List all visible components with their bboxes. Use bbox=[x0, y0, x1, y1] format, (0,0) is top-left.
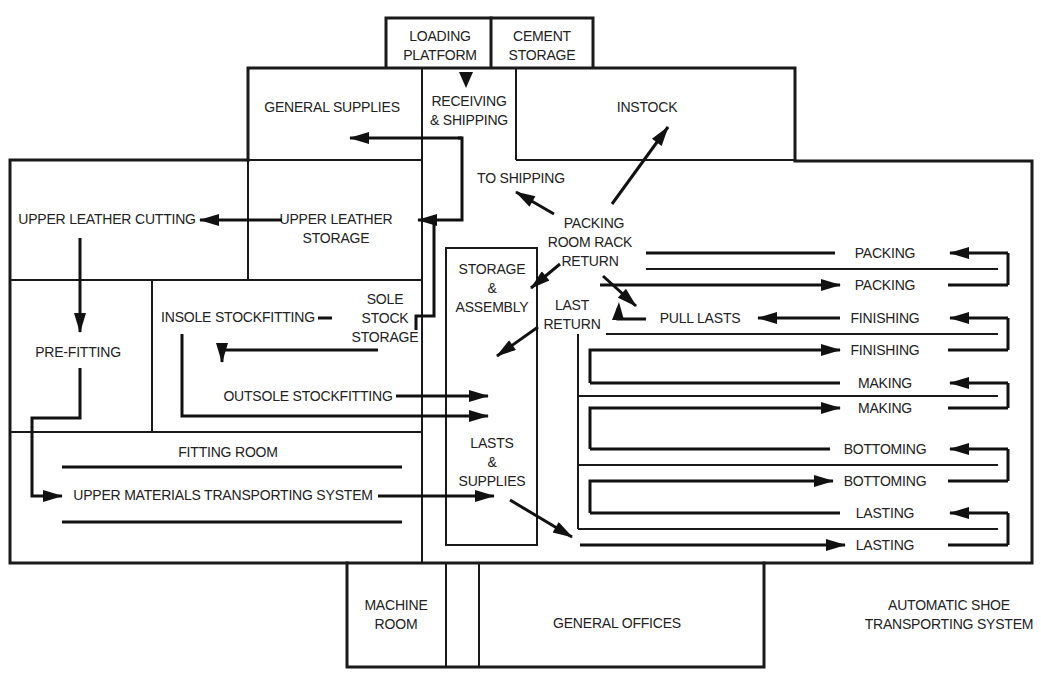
upper-materials-transporting-label: UPPER MATERIALS TRANSPORTING SYSTEM bbox=[73, 487, 373, 503]
pull-lasts-label: PULL LASTS bbox=[660, 310, 741, 326]
conveyor-station-label: FINISHING bbox=[851, 342, 920, 358]
loading-platform-label: LOADING bbox=[409, 28, 471, 44]
flow-rack-return-to-assembly bbox=[531, 264, 560, 288]
packing-room-rack-return-label-2: ROOM RACK bbox=[548, 234, 633, 250]
last-return-label-2: RETURN bbox=[543, 316, 600, 332]
last-return-label: LAST bbox=[555, 297, 590, 313]
flow-lasts-to-lasting bbox=[510, 500, 572, 537]
packing-room-rack-return-label-3: RETURN bbox=[561, 253, 618, 269]
flow-feed-to-sole-storage bbox=[416, 220, 434, 330]
cement-storage-label-2: STORAGE bbox=[509, 47, 576, 63]
finishing-out-arrow bbox=[590, 350, 840, 383]
automatic-shoe-transporting-label-2: TRANSPORTING SYSTEM bbox=[865, 616, 1034, 632]
loading-platform-label-2: PLATFORM bbox=[403, 47, 477, 63]
conveyor-station-label: BOTTOMING bbox=[844, 473, 927, 489]
flow-last-return-to-assembly bbox=[497, 327, 538, 356]
instock-label: INSTOCK bbox=[617, 99, 678, 115]
receiving-shipping-label: RECEIVING bbox=[431, 93, 506, 109]
storage-assembly-label-3: ASSEMBLY bbox=[456, 299, 530, 315]
insole-stockfitting-label: INSOLE STOCKFITTING bbox=[161, 309, 315, 325]
upper-leather-storage-label: UPPER LEATHER bbox=[279, 211, 392, 227]
conveyor-station-label: PACKING bbox=[855, 245, 916, 261]
machine-room-label-2: ROOM bbox=[375, 616, 418, 632]
automatic-shoe-transporting-label: AUTOMATIC SHOE bbox=[888, 597, 1010, 613]
arrow-up-icon bbox=[612, 302, 624, 320]
fitting-room-label: FITTING ROOM bbox=[178, 444, 277, 460]
pre-fitting-label: PRE-FITTING bbox=[35, 344, 121, 360]
conveyor-station-label: LASTING bbox=[856, 505, 915, 521]
general-supplies-label: GENERAL SUPPLIES bbox=[264, 99, 400, 115]
flow-to-instock bbox=[612, 127, 668, 204]
sole-stock-storage-label: SOLE bbox=[367, 291, 404, 307]
conveyor-station-label: LASTING bbox=[856, 537, 915, 553]
flow-rack-return-to-pull-lasts bbox=[603, 276, 636, 306]
upper-leather-cutting-label: UPPER LEATHER CUTTING bbox=[18, 211, 196, 227]
flow-sole-storage-to-outsole bbox=[222, 350, 378, 362]
making-out-arrow bbox=[590, 408, 840, 449]
flow-receiving-to-upper-leather bbox=[418, 138, 462, 220]
bottoming-out-arrow bbox=[590, 481, 833, 513]
conveyor-station-label: BOTTOMING bbox=[844, 441, 927, 457]
machine-room-label: MACHINE bbox=[364, 597, 427, 613]
to-shipping-label: TO SHIPPING bbox=[477, 170, 565, 186]
general-offices-label: GENERAL OFFICES bbox=[553, 615, 681, 631]
storage-assembly-label-2: & bbox=[487, 280, 497, 296]
conveyor-system: PACKINGPACKINGFINISHINGFINISHINGMAKINGMA… bbox=[578, 245, 1008, 553]
lasts-supplies-label: LASTS bbox=[470, 435, 513, 451]
storage-assembly-label: STORAGE bbox=[459, 261, 526, 277]
cement-storage-label: CEMENT bbox=[513, 28, 572, 44]
flow-to-shipping bbox=[516, 192, 554, 214]
conveyor-station-label: FINISHING bbox=[851, 310, 920, 326]
sole-stock-storage-label-2: STOCK bbox=[362, 310, 410, 326]
conveyor-station-label: MAKING bbox=[858, 400, 912, 416]
upper-leather-storage-label-2: STORAGE bbox=[303, 230, 370, 246]
conveyor-station-label: MAKING bbox=[858, 375, 912, 391]
lasts-supplies-label-3: SUPPLIES bbox=[459, 473, 526, 489]
outsole-stockfitting-label: OUTSOLE STOCKFITTING bbox=[223, 388, 392, 404]
arrow-down-icon bbox=[459, 72, 473, 88]
lasts-supplies-label-2: & bbox=[487, 454, 497, 470]
sole-stock-storage-label-3: STORAGE bbox=[352, 329, 419, 345]
packing-room-rack-return-label: PACKING bbox=[564, 215, 625, 231]
conveyor-station-label: PACKING bbox=[855, 277, 916, 293]
receiving-shipping-label-2: & SHIPPING bbox=[430, 112, 508, 128]
factory-floor-plan: LOADING PLATFORM CEMENT STORAGE GENERAL … bbox=[0, 0, 1041, 682]
